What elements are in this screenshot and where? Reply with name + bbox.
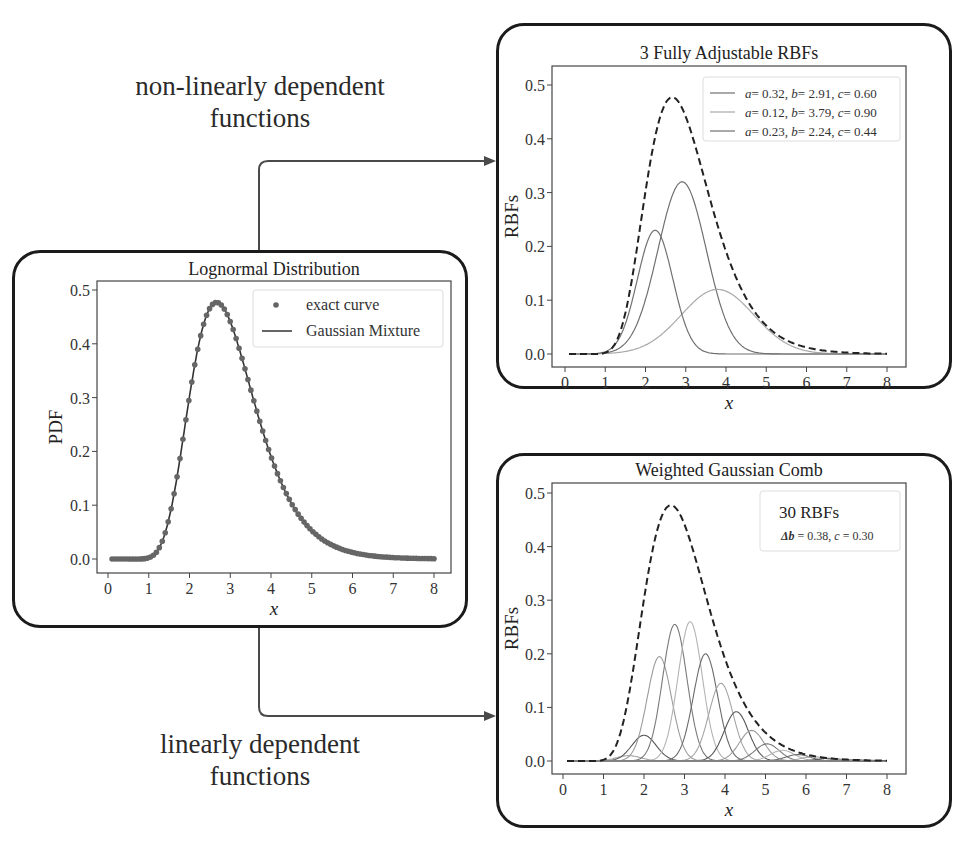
x-tick-label: 0: [559, 781, 567, 798]
y-axis-label: RBFs: [501, 607, 522, 650]
annotation-count: 30 RBFs: [779, 503, 839, 522]
x-tick-label: 3: [681, 781, 689, 798]
annotation-box: 30 RBFsΔb = 0.38, c = 0.30: [760, 491, 900, 551]
y-tick-label: 0.5: [525, 485, 545, 502]
x-tick-label: 4: [721, 781, 729, 798]
comb-rbf-curve: [567, 712, 887, 761]
annotation-params: Δb = 0.38, c = 0.30: [780, 529, 873, 543]
chart-title: Weighted Gaussian Comb: [635, 460, 823, 480]
comb-rbf-curve: [567, 683, 887, 761]
y-tick-label: 0.2: [525, 646, 545, 663]
x-tick-label: 8: [883, 781, 891, 798]
x-tick-label: 2: [640, 781, 648, 798]
y-tick-label: 0.3: [525, 592, 545, 609]
comb-rbf-curve: [567, 761, 887, 762]
comb-rbf-curve: [567, 654, 887, 761]
x-tick-label: 6: [802, 781, 810, 798]
y-tick-label: 0.0: [525, 753, 545, 770]
chart-gaussian-comb: Weighted Gaussian Comb0123456780.00.10.2…: [0, 0, 956, 862]
x-axis-label: x: [724, 799, 734, 820]
y-tick-label: 0.1: [525, 699, 545, 716]
x-tick-label: 1: [600, 781, 608, 798]
x-tick-label: 7: [843, 781, 851, 798]
y-tick-label: 0.4: [525, 539, 545, 556]
x-tick-label: 5: [762, 781, 770, 798]
